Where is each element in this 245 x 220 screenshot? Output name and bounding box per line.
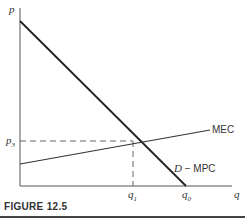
- mec-label: MEC: [212, 125, 234, 135]
- mec-curve: [20, 130, 210, 164]
- d-mpc-label: D − MPC: [174, 163, 216, 174]
- p3-label: p3: [6, 135, 15, 149]
- x-axis-label: q: [234, 189, 240, 200]
- q1-label: q1: [128, 189, 137, 203]
- bottom-rule: [0, 216, 245, 218]
- y-axis-label: p: [9, 4, 15, 15]
- q0-label: q0: [182, 189, 191, 203]
- d-mpc-curve: [20, 21, 186, 186]
- diagram-canvas: [0, 0, 245, 220]
- figure-caption: FIGURE 12.5: [4, 201, 67, 212]
